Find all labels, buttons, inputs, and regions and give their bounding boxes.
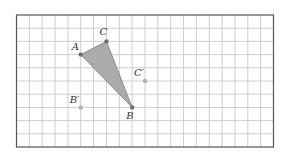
point-label: C′ [134,67,145,78]
point-marker [143,79,147,83]
point-marker [79,105,83,109]
point-marker [79,52,83,56]
point-label: B [125,110,133,121]
point-marker [104,39,108,43]
point-label: C [99,26,107,37]
point-label: A [71,41,79,52]
point-marker [130,105,134,109]
grid-diagram: ACBC′B′ [0,0,282,154]
point-label: B′ [69,94,80,105]
